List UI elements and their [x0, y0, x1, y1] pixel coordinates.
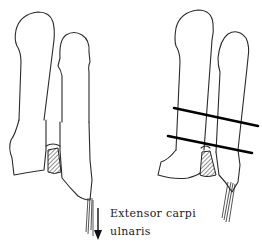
metacarpal-4-base [10, 120, 46, 175]
metacarpal-4-base-right [158, 150, 200, 179]
pull-arrow-icon [94, 208, 102, 240]
cartilage-block [48, 148, 61, 174]
metacarpal-5-base-right [216, 150, 240, 192]
metacarpal-5-outline-right [216, 32, 249, 152]
tendon-label-line1: Extensor carpi [110, 208, 196, 219]
tendon-strands-right [222, 182, 235, 222]
left-panel [10, 12, 102, 240]
cartilage-block-right [200, 151, 216, 177]
metacarpal-4-outline-right [175, 10, 213, 150]
osteotomy-line-upper [174, 108, 258, 126]
right-panel [158, 10, 258, 222]
tendon-strands [86, 198, 93, 236]
metacarpal-5-base [60, 122, 92, 200]
metacarpal-4-outline [15, 12, 54, 120]
tendon-label-line2: ulnaris [110, 226, 151, 237]
metacarpal-5-outline [58, 33, 90, 123]
